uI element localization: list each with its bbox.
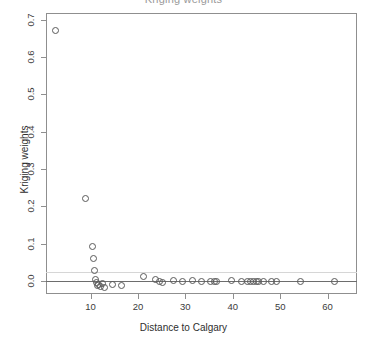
data-point xyxy=(101,284,108,291)
data-point xyxy=(159,279,166,286)
x-tick-label: 60 xyxy=(322,301,333,312)
y-tick xyxy=(41,94,46,95)
y-tick xyxy=(41,244,46,245)
data-point xyxy=(118,282,125,289)
y-tick xyxy=(41,169,46,170)
data-point xyxy=(170,277,177,284)
data-point xyxy=(140,273,147,280)
x-tick-label: 20 xyxy=(133,301,144,312)
y-tick xyxy=(41,20,46,21)
y-tick xyxy=(41,57,46,58)
y-tick-label: 0.7 xyxy=(25,11,36,29)
data-point xyxy=(260,278,267,285)
y-tick-label: 0.4 xyxy=(25,123,36,141)
data-point xyxy=(82,195,89,202)
y-tick xyxy=(41,132,46,133)
y-tick-label: 0.2 xyxy=(25,197,36,215)
y-tick-label: 0.3 xyxy=(25,160,36,178)
x-tick xyxy=(138,294,139,299)
x-tick-label: 40 xyxy=(227,301,238,312)
chart-title: Kriging weights xyxy=(0,0,367,5)
x-tick-label: 30 xyxy=(180,301,191,312)
data-point xyxy=(273,278,280,285)
y-tick-label: 0.6 xyxy=(25,48,36,66)
x-tick xyxy=(185,294,186,299)
data-point xyxy=(331,278,338,285)
data-point xyxy=(198,278,205,285)
x-tick xyxy=(280,294,281,299)
data-point xyxy=(109,281,116,288)
data-point xyxy=(90,255,97,262)
x-tick-label: 10 xyxy=(85,301,96,312)
x-tick-label: 50 xyxy=(275,301,286,312)
data-point xyxy=(91,267,98,274)
data-point xyxy=(297,278,304,285)
data-point xyxy=(179,278,186,285)
plot-data-area xyxy=(46,13,357,294)
x-tick xyxy=(328,294,329,299)
y-tick xyxy=(41,281,46,282)
data-point xyxy=(213,278,220,285)
data-point xyxy=(89,243,96,250)
y-tick-label: 0.0 xyxy=(25,272,36,290)
data-point xyxy=(189,277,196,284)
data-point xyxy=(52,27,59,34)
x-tick xyxy=(233,294,234,299)
y-tick xyxy=(41,206,46,207)
x-axis-title: Distance to Calgary xyxy=(0,322,367,333)
kriging-weights-scatter-plot: Kriging weights Distance to Calgary Krig… xyxy=(0,0,367,345)
data-point xyxy=(228,277,235,284)
y-tick-label: 0.5 xyxy=(25,85,36,103)
x-tick xyxy=(91,294,92,299)
y-tick-label: 0.1 xyxy=(25,235,36,253)
